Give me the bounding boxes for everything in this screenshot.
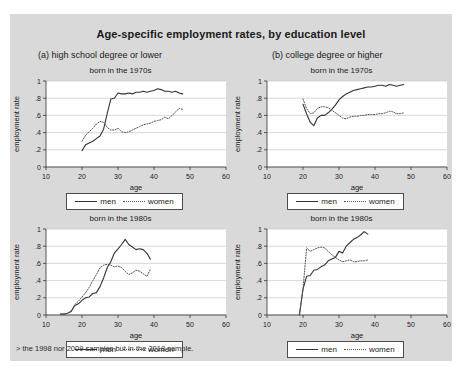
svg-text:employment rate: employment rate — [233, 244, 242, 300]
svg-text:employment rate: employment rate — [12, 96, 21, 152]
svg-text:60: 60 — [443, 321, 451, 328]
svg-text:1: 1 — [258, 78, 262, 85]
svg-text:60: 60 — [443, 173, 451, 180]
line-solid-icon — [75, 201, 97, 202]
svg-text:50: 50 — [186, 173, 194, 180]
svg-text:1: 1 — [258, 226, 262, 233]
svg-text:60: 60 — [222, 321, 230, 328]
chart-panel-b-1970s: born in the 1970s 0.2.4.6.81102030405060… — [231, 66, 452, 208]
svg-text:30: 30 — [114, 173, 122, 180]
svg-text:50: 50 — [407, 173, 415, 180]
svg-text:.6: .6 — [35, 260, 41, 267]
svg-text:50: 50 — [407, 321, 415, 328]
legend-item-men: men — [75, 197, 116, 206]
svg-text:20: 20 — [78, 321, 86, 328]
line-dotted-icon — [344, 201, 366, 202]
svg-text:.8: .8 — [256, 243, 262, 250]
svg-text:10: 10 — [42, 321, 50, 328]
chart-subtitle: born in the 1970s — [10, 66, 231, 75]
legend-b1: men women — [287, 193, 404, 210]
svg-text:.8: .8 — [35, 243, 41, 250]
svg-text:10: 10 — [263, 173, 271, 180]
svg-text:0: 0 — [37, 312, 41, 319]
svg-text:age: age — [130, 183, 143, 192]
line-dotted-icon — [123, 201, 145, 202]
svg-text:40: 40 — [150, 321, 158, 328]
svg-text:age: age — [351, 183, 364, 192]
figure-canvas: Age-specific employment rates, by educat… — [10, 14, 452, 361]
svg-text:10: 10 — [263, 321, 271, 328]
chart-panel-a-1970s: born in the 1970s 0.2.4.6.81102030405060… — [10, 66, 231, 208]
svg-text:.6: .6 — [256, 260, 262, 267]
svg-text:40: 40 — [371, 321, 379, 328]
svg-text:.6: .6 — [35, 112, 41, 119]
svg-text:.2: .2 — [35, 294, 41, 301]
chart-svg-b1: 0.2.4.6.81102030405060ageemployment rate — [231, 75, 452, 203]
svg-text:.4: .4 — [256, 129, 262, 136]
legend-item-women: women — [344, 197, 395, 206]
svg-text:age: age — [351, 331, 364, 340]
svg-text:.4: .4 — [35, 129, 41, 136]
chart-subtitle: born in the 1980s — [231, 214, 452, 223]
svg-text:.8: .8 — [35, 95, 41, 102]
svg-text:age: age — [130, 331, 143, 340]
legend-item-men: men — [296, 197, 337, 206]
svg-text:.2: .2 — [256, 146, 262, 153]
svg-text:.8: .8 — [256, 95, 262, 102]
panel-b-header: (b) college degree or higher — [272, 50, 383, 60]
svg-text:.6: .6 — [256, 112, 262, 119]
svg-text:50: 50 — [186, 321, 194, 328]
legend-item-women: women — [123, 197, 174, 206]
chart-subtitle: born in the 1970s — [231, 66, 452, 75]
legend-a1: men women — [66, 193, 183, 210]
chart-svg-a2: 0.2.4.6.81102030405060ageemployment rate — [10, 223, 231, 351]
figure-page: Age-specific employment rates, by educat… — [0, 0, 462, 368]
svg-text:20: 20 — [299, 321, 307, 328]
svg-text:10: 10 — [42, 173, 50, 180]
line-solid-icon — [296, 201, 318, 202]
figure-footnote: > the 1998 nor 2009 samples but in the 2… — [16, 344, 446, 353]
chart-svg-b2: 0.2.4.6.81102030405060ageemployment rate — [231, 223, 452, 351]
svg-text:40: 40 — [371, 173, 379, 180]
svg-text:.4: .4 — [35, 277, 41, 284]
svg-text:1: 1 — [37, 226, 41, 233]
svg-text:40: 40 — [150, 173, 158, 180]
legend-label-women: women — [369, 197, 395, 206]
chart-panel-a-1980s: born in the 1980s 0.2.4.6.81102030405060… — [10, 214, 231, 356]
svg-text:employment rate: employment rate — [233, 96, 242, 152]
svg-text:0: 0 — [258, 312, 262, 319]
chart-panel-b-1980s: born in the 1980s 0.2.4.6.81102030405060… — [231, 214, 452, 356]
panel-a-header: (a) high school degree or lower — [38, 50, 162, 60]
svg-text:.4: .4 — [256, 277, 262, 284]
svg-text:30: 30 — [335, 321, 343, 328]
svg-text:0: 0 — [37, 164, 41, 171]
svg-text:30: 30 — [114, 321, 122, 328]
svg-text:0: 0 — [258, 164, 262, 171]
svg-text:20: 20 — [299, 173, 307, 180]
svg-text:.2: .2 — [35, 146, 41, 153]
legend-label-men: men — [100, 197, 116, 206]
svg-text:60: 60 — [222, 173, 230, 180]
figure-title: Age-specific employment rates, by educat… — [10, 28, 452, 40]
svg-text:.2: .2 — [256, 294, 262, 301]
chart-subtitle: born in the 1980s — [10, 214, 231, 223]
legend-label-women: women — [148, 197, 174, 206]
svg-text:employment rate: employment rate — [12, 244, 21, 300]
svg-text:30: 30 — [335, 173, 343, 180]
legend-label-men: men — [321, 197, 337, 206]
chart-svg-a1: 0.2.4.6.81102030405060ageemployment rate — [10, 75, 231, 203]
svg-text:20: 20 — [78, 173, 86, 180]
svg-text:1: 1 — [37, 78, 41, 85]
